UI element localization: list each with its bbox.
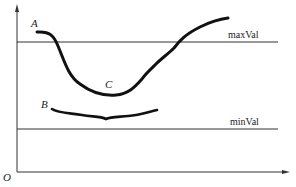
curve-a-minimum-label: C [105, 78, 113, 90]
threshold-diagram: maxVal minVal A C B O [0, 0, 296, 187]
y-axis-arrow-icon [15, 4, 19, 12]
x-axis-arrow-icon [282, 170, 290, 174]
min-threshold-label: minVal [230, 116, 259, 127]
max-threshold-label: maxVal [228, 29, 259, 40]
x-axis [17, 170, 290, 174]
y-axis [15, 4, 19, 172]
curve-a-label: A [30, 17, 38, 29]
origin-label: O [3, 171, 11, 183]
curve-b [52, 109, 157, 119]
diagram-canvas: maxVal minVal A C B O [0, 0, 296, 187]
curve-a [37, 18, 228, 95]
curve-b-label: B [41, 98, 48, 110]
